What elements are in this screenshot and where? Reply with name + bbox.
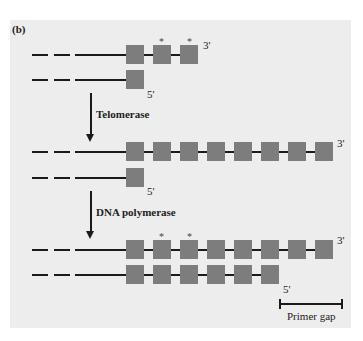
dash	[54, 177, 70, 179]
three-prime-label: 3'	[337, 138, 344, 149]
dash	[54, 79, 70, 81]
repeat-box	[234, 142, 252, 161]
bracket-bar	[280, 303, 342, 305]
dash	[32, 79, 48, 81]
strand-line	[75, 177, 130, 179]
repeat-box	[234, 240, 252, 259]
dash	[32, 249, 48, 251]
repeat-box	[315, 240, 333, 259]
arrow-shaft	[90, 191, 92, 232]
arrow-head-icon	[86, 134, 94, 142]
star-marker: *	[159, 37, 164, 47]
repeat-box	[261, 265, 279, 284]
repeat-box	[153, 265, 171, 284]
repeat-box	[126, 168, 144, 187]
dash	[32, 177, 48, 179]
repeat-box	[153, 142, 171, 161]
dash	[54, 249, 70, 251]
repeat-box	[126, 70, 144, 89]
strand-line	[75, 79, 130, 81]
star-marker: *	[187, 37, 192, 47]
three-prime-label: 3'	[203, 40, 210, 51]
repeat-box	[180, 240, 198, 259]
repeat-box	[180, 265, 198, 284]
repeat-box	[234, 265, 252, 284]
arrow-shaft	[90, 93, 92, 135]
dash	[32, 274, 48, 276]
repeat-box	[288, 142, 306, 161]
repeat-box	[180, 142, 198, 161]
repeat-box	[153, 45, 171, 64]
arrow-head-icon	[86, 231, 94, 239]
repeat-box	[207, 142, 225, 161]
repeat-box	[207, 265, 225, 284]
five-prime-label: 5'	[283, 284, 290, 295]
repeat-box	[288, 240, 306, 259]
star-marker: *	[187, 232, 192, 242]
repeat-box	[315, 142, 333, 161]
repeat-box	[261, 240, 279, 259]
repeat-box	[180, 45, 198, 64]
dash	[32, 54, 48, 56]
dash	[54, 54, 70, 56]
five-prime-label: 5'	[147, 186, 154, 197]
dna-polymerase-label: DNA polymerase	[96, 207, 176, 218]
dash	[32, 151, 48, 153]
telomerase-label: Telomerase	[96, 109, 149, 120]
five-prime-label: 5'	[147, 89, 154, 100]
repeat-box	[126, 45, 144, 64]
dash	[54, 151, 70, 153]
repeat-box	[261, 142, 279, 161]
dash	[54, 274, 70, 276]
bracket-tick	[341, 299, 343, 309]
repeat-box	[126, 240, 144, 259]
repeat-box	[153, 240, 171, 259]
repeat-box	[126, 265, 144, 284]
three-prime-label: 3'	[337, 235, 344, 246]
repeat-box	[207, 240, 225, 259]
star-marker: *	[159, 232, 164, 242]
repeat-box	[126, 142, 144, 161]
panel-label: (b)	[12, 24, 25, 35]
primer-gap-label: Primer gap	[287, 311, 336, 322]
